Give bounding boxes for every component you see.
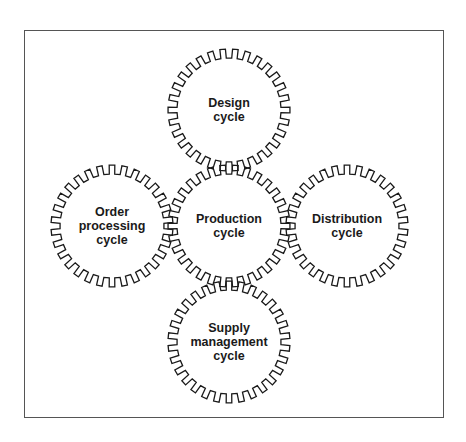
gear-label-line: Supply bbox=[190, 321, 267, 335]
gear-label-line: Distribution bbox=[312, 212, 382, 226]
gear-label-production: Productioncycle bbox=[196, 212, 262, 240]
gear-label-line: cycle bbox=[208, 110, 250, 124]
gear-label-line: Design bbox=[208, 96, 250, 110]
gear-label-line: cycle bbox=[79, 233, 146, 247]
gear-label-design: Designcycle bbox=[208, 96, 250, 124]
gear-label-line: management bbox=[190, 335, 267, 349]
gear-label-line: Production bbox=[196, 212, 262, 226]
gear-label-line: processing bbox=[79, 219, 146, 233]
gear-label-line: Order bbox=[79, 205, 146, 219]
gear-label-line: cycle bbox=[312, 226, 382, 240]
gear-label-line: cycle bbox=[196, 226, 262, 240]
gear-label-line: cycle bbox=[190, 349, 267, 363]
gear-label-distribution: Distributioncycle bbox=[312, 212, 382, 240]
gear-label-supply-management: Supplymanagementcycle bbox=[190, 321, 267, 363]
gear-label-order-processing: Orderprocessingcycle bbox=[79, 205, 146, 247]
